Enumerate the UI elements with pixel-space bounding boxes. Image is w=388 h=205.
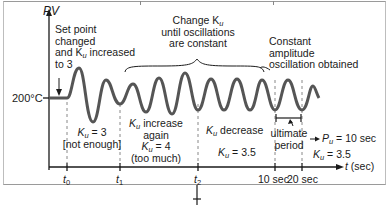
tick-10sec: 10 sec [258, 174, 289, 186]
result-arrow [310, 137, 320, 142]
tick-t2: t2 [194, 174, 201, 186]
curly-brace [125, 59, 264, 72]
tick-20sec: 20 sec [287, 174, 318, 186]
result-ku: Ku = 3.5 [313, 149, 351, 161]
annotation-setpoint-changed: Set point changed and Ku increased to 3 [55, 24, 135, 70]
setpoint-pointer [56, 78, 62, 96]
annotation-ku-35: Ku = 3.5 [218, 147, 256, 159]
y-axis-label: PV [43, 6, 59, 18]
result-pu: Pu = 10 sec [322, 133, 376, 145]
annotation-ku-3: Ku = 3 [not enough] [62, 127, 122, 150]
down-arrow-icon [56, 89, 62, 96]
x-axis-label: t (sec) [345, 161, 374, 173]
x-axis-arrow-icon [336, 164, 344, 170]
annotation-change-ku: Change Ku until oscillations are constan… [148, 15, 248, 50]
process-variable-waveform [49, 68, 319, 122]
annotation-ku-decrease: Ku decrease [206, 125, 263, 137]
tick-t0: t0 [63, 174, 70, 186]
annotation-constant-amplitude: Constant amplitude oscillation obtained [269, 36, 358, 71]
annotation-ku-4: Ku increase again Ku = 4 (too much) [120, 118, 192, 164]
right-arrow-icon [315, 137, 320, 142]
annotation-ultimate-period: ultimate period [269, 128, 309, 151]
tick-t1: t1 [116, 174, 123, 186]
ultimate-period-marker [276, 114, 301, 126]
setpoint-label: 200°C [12, 93, 43, 105]
